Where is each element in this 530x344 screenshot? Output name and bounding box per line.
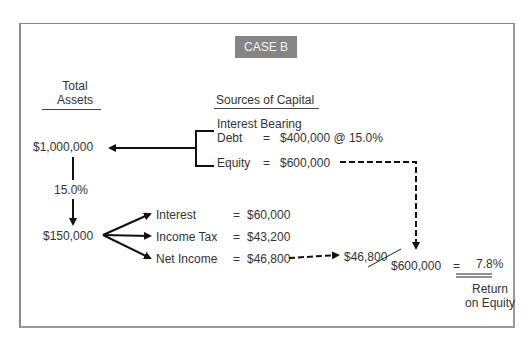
net-income-dashed-arrow — [289, 255, 338, 258]
to-net-income-arrow — [103, 235, 150, 258]
to-interest-arrow — [103, 214, 150, 235]
diagram-connectors — [0, 0, 530, 344]
to-income-tax-arrow — [103, 235, 150, 236]
capital-bracket — [196, 131, 214, 166]
fraction-slash — [368, 249, 401, 267]
equity-dashed-arrow — [340, 162, 416, 248]
